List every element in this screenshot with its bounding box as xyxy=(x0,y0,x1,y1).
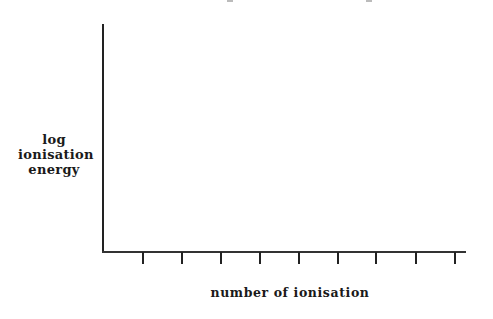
y-axis-line xyxy=(102,24,104,253)
x-axis-line xyxy=(102,251,466,253)
x-axis-tick xyxy=(259,252,261,264)
clipped-text-fragment xyxy=(227,0,233,2)
x-axis-tick xyxy=(298,252,300,264)
y-axis-label-line-2: ionisation xyxy=(18,147,90,162)
x-axis-tick xyxy=(181,252,183,264)
x-axis-label: number of ionisation xyxy=(200,285,380,300)
x-axis-tick xyxy=(220,252,222,264)
y-axis-label-line-3: energy xyxy=(18,162,90,177)
x-axis-tick xyxy=(337,252,339,264)
y-axis-label-line-1: log xyxy=(18,132,90,147)
x-axis-tick xyxy=(142,252,144,264)
x-axis-tick xyxy=(454,252,456,264)
x-axis-tick xyxy=(375,252,377,264)
clipped-text-fragment xyxy=(366,0,372,2)
y-axis-label: log ionisation energy xyxy=(18,132,90,177)
x-axis-tick xyxy=(415,252,417,264)
